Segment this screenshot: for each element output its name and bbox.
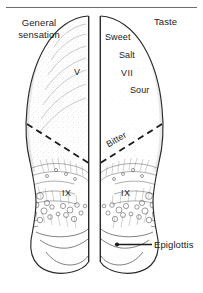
epiglottis-label: Epiglottis: [154, 239, 194, 250]
taste-label-sour: Sour: [130, 85, 149, 96]
left-tongue-half: [19, 14, 95, 280]
nerve-label-ix-right: IX: [121, 188, 130, 199]
taste-heading: Taste: [154, 16, 177, 27]
nerve-label-ix-left: IX: [62, 188, 71, 199]
nerve-label-v: V: [74, 67, 80, 78]
general-sensation-line2: sensation: [18, 29, 60, 40]
taste-label-salt: Salt: [119, 50, 135, 61]
general-sensation-line1: General: [22, 17, 57, 28]
general-sensation-heading: General sensation: [8, 17, 70, 40]
tongue-innervation-figure: General sensation Taste V Sweet Salt VII…: [0, 0, 203, 293]
taste-label-sweet: Sweet: [105, 32, 131, 43]
nerve-label-vii: VII: [121, 68, 133, 79]
